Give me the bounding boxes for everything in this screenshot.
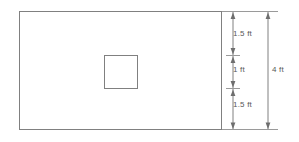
arrowhead-top-segment-down [231,48,236,55]
dimension-label-middle-segment: 1 ft [233,66,245,74]
arrowhead-bottom-segment-up [231,90,236,97]
arrowhead-middle-segment-down [231,81,236,88]
arrowhead-top-segment-up [231,13,236,20]
arrowhead-middle-segment-up [231,57,236,64]
arrowhead-bottom-segment-down [231,123,236,130]
inner-square [105,56,138,89]
arrowhead-total-up [266,13,271,20]
arrowhead-total-down [266,123,271,130]
dimension-chain-total [266,12,271,129]
dimension-label-bottom-segment: 1.5 ft [233,101,252,109]
geometry-diagram: 1.5 ft 1 ft 1.5 ft 4 ft [0,0,299,142]
dimension-label-top-segment: 1.5 ft [233,30,252,38]
diagram-canvas [0,0,299,142]
dimension-label-total-height: 4 ft [272,66,284,74]
